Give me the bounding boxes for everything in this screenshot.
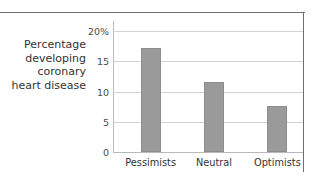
bar-neutral — [204, 82, 224, 152]
plot-area: 05101520% PessimistsNeutralOptimists — [113, 21, 303, 153]
x-tick-label-neutral: Neutral — [196, 157, 232, 168]
y-axis-line — [113, 21, 114, 153]
x-tick-label-pessimists: Pessimists — [125, 157, 176, 168]
y-tick-label-10: 10 — [97, 86, 109, 97]
y-tick-label-0: 0 — [103, 147, 109, 158]
x-axis-line — [113, 152, 303, 153]
chart-figure: Percentage developing coronary heart dis… — [0, 0, 315, 183]
y-tick-label-5: 5 — [103, 116, 109, 127]
figure-top-rule — [0, 12, 305, 13]
figure-right-rule — [303, 12, 304, 172]
y-axis-title: Percentage developing coronary heart dis… — [8, 38, 86, 92]
y-tick-label-15: 15 — [97, 56, 109, 67]
bar-pessimists — [141, 48, 161, 152]
bar-optimists — [267, 106, 287, 152]
gridline-20 — [113, 31, 303, 32]
x-tick-label-optimists: Optimists — [254, 157, 301, 168]
y-tick-label-20: 20% — [88, 26, 109, 37]
